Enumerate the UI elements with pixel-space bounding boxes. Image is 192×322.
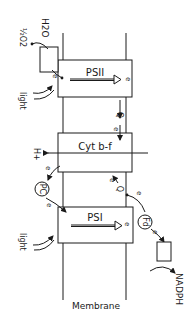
- o2-label: ½O2: [18, 28, 27, 47]
- psi-label: PSI: [87, 212, 102, 223]
- svg-text:e: e: [135, 191, 143, 195]
- cytbf-complex: [48, 133, 148, 172]
- water-splitting-box: [40, 47, 58, 72]
- psii-label: PSII: [86, 67, 104, 78]
- svg-text:e: e: [151, 230, 159, 234]
- q-top-label: Q: [115, 112, 124, 118]
- svg-text:e: e: [112, 127, 120, 131]
- svg-text:e: e: [123, 222, 131, 226]
- pc-label: PC: [38, 184, 47, 195]
- fd-label: Fd: [141, 217, 150, 227]
- fd-carrier: Fd: [138, 215, 152, 229]
- svg-text:e: e: [51, 74, 59, 78]
- electron-transport-diagram: PC Fd PSII Cyt b-f PSI Q Q e e e e e e e…: [0, 0, 192, 322]
- fnr-box: [157, 242, 171, 261]
- membrane-label: Membrane: [72, 301, 121, 311]
- psii-complex: [58, 60, 132, 97]
- light-top-label: light: [18, 92, 27, 110]
- h2o-label: H2O: [40, 18, 50, 38]
- svg-text:e: e: [45, 203, 53, 207]
- q-bottom-label: Q: [115, 186, 124, 192]
- cytbf-label: Cyt b-f: [78, 141, 112, 152]
- proton-label: H+: [32, 148, 41, 161]
- svg-text:e: e: [44, 166, 52, 170]
- svg-text:e: e: [108, 178, 116, 182]
- light-bottom-label: light: [18, 233, 27, 251]
- svg-text:e: e: [124, 77, 132, 81]
- nadph-label: NADPH: [174, 273, 184, 305]
- nadph-arrow: [150, 267, 175, 273]
- pc-carrier: PC: [35, 182, 49, 196]
